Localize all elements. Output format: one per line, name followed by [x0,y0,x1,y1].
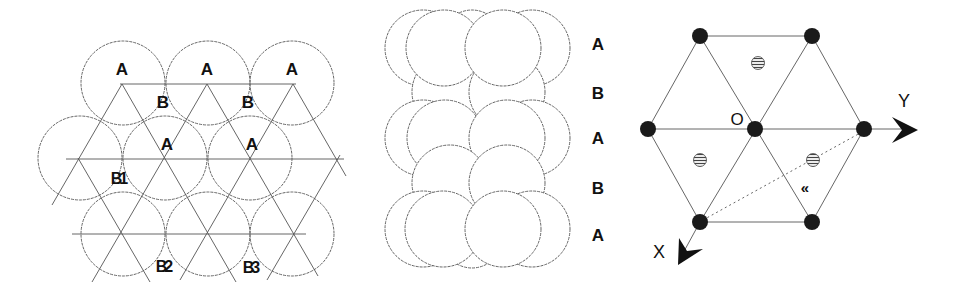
lattice-atom [692,214,708,230]
hatched-atom [694,154,707,167]
lattice-atom-origin [747,121,763,137]
atom-a [465,191,541,267]
lattice-atom [856,121,872,137]
diagram-canvas: A A A B B A A B1 B2 B3 [0,0,958,291]
label-a: A [286,60,298,79]
x-axis-label: X [653,242,665,262]
label-a: A [161,135,173,154]
label-a: A [246,135,258,154]
lattice-atom [804,214,820,230]
hatched-atom [807,154,820,167]
middle-panel-side-view: A B A B A [385,10,604,268]
left-panel-packing: A A A B B A A B1 B2 B3 [38,41,346,282]
label-b: B [157,93,169,112]
lattice-atom [804,28,820,44]
atom-circle [38,116,122,200]
atom-circle [81,41,165,125]
layer-label: B [592,84,604,103]
right-panel-hex-lattice: O Y X « [640,28,918,265]
x-axis-arrow-icon [678,238,703,265]
lattice-line [92,84,207,282]
label-a: A [116,60,128,79]
y-axis-label: Y [898,91,910,111]
layer-label: A [592,35,604,54]
label-b2: B2 [156,258,174,275]
lattice-line [293,84,346,176]
atom-circle [250,41,334,125]
layer-label: A [592,226,604,245]
atom-circle [166,41,250,125]
layer-label: A [592,129,604,148]
hatched-atom [752,57,765,70]
y-axis-arrow-icon [892,117,918,143]
lattice-atom [640,121,656,137]
lattice-atom [692,28,708,44]
angle-label: « [801,179,809,196]
label-a: A [201,60,213,79]
lattice-line [267,155,340,280]
origin-label: O [730,110,743,129]
label-b: B [242,93,254,112]
layer-label: B [592,179,604,198]
label-b3: B3 [243,259,261,276]
atom-a [465,10,541,86]
